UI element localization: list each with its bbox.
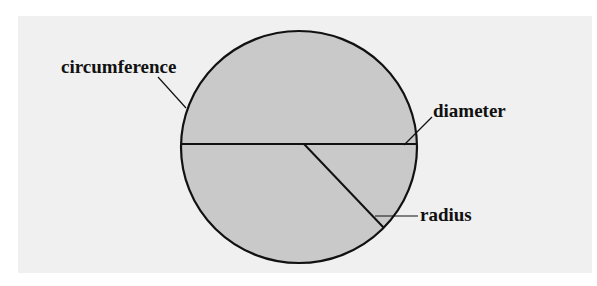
circumference-leader — [158, 77, 186, 108]
circle — [181, 31, 417, 263]
diameter-label: diameter — [433, 100, 506, 121]
circle-diagram: circumference diameter radius — [0, 0, 597, 286]
circumference-label: circumference — [61, 56, 176, 77]
radius-label: radius — [420, 204, 472, 225]
